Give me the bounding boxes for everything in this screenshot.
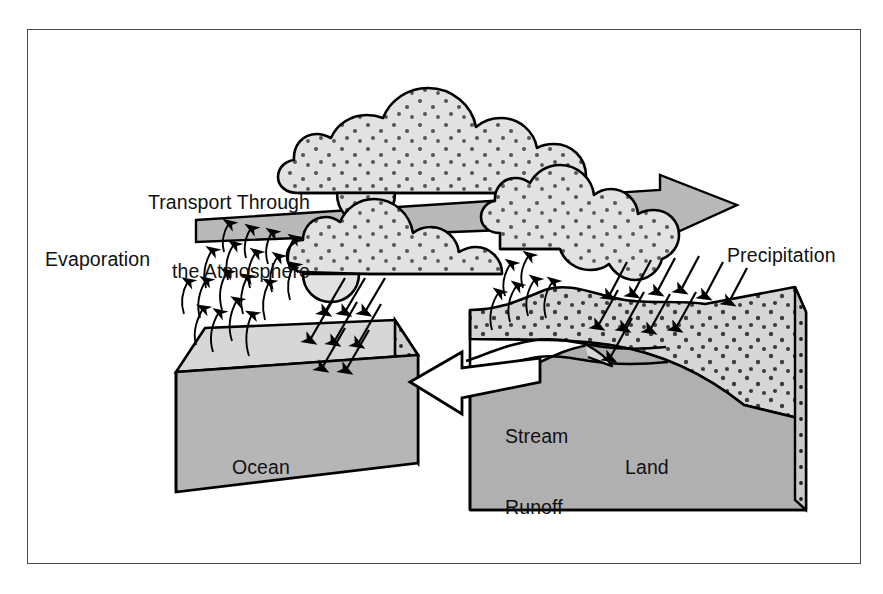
label-precipitation: Precipitation: [727, 244, 836, 267]
label-evaporation: Evaporation: [45, 248, 150, 271]
hydrologic-cycle-figure: Transport Through the Atmosphere Evapora…: [0, 0, 883, 594]
stream-line-1: Stream: [505, 425, 568, 449]
transport-line-1: Transport Through: [90, 191, 310, 214]
label-land: Land: [625, 456, 669, 479]
stream-line-2: Runoff: [505, 496, 568, 520]
label-transport-through-the-atmosphere: Transport Through the Atmosphere: [90, 145, 310, 329]
label-stream-runoff: Stream Runoff: [505, 377, 568, 567]
label-ocean: Ocean: [232, 456, 290, 479]
